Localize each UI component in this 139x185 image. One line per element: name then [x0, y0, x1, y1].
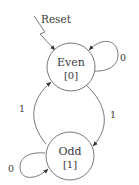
- transition-odd-to-even: [34, 82, 51, 144]
- state-odd-output: [1]: [63, 159, 77, 170]
- transition-odd-to-even-label: 1: [19, 103, 25, 114]
- reset-label: Reset: [41, 13, 72, 25]
- transition-odd-self-loop: [20, 153, 48, 178]
- state-diagram: Reset 1 1 0 0 Even [0] Odd [1]: [0, 0, 139, 185]
- state-even-name: Even: [57, 56, 85, 69]
- transition-even-to-odd: [86, 85, 104, 146]
- state-even: Even [0]: [47, 43, 95, 91]
- transition-odd-self-loop-label: 0: [8, 163, 14, 174]
- state-even-output: [0]: [64, 70, 78, 81]
- state-odd: Odd [1]: [46, 132, 94, 180]
- transition-even-self-loop-label: 0: [120, 52, 126, 63]
- state-odd-name: Odd: [58, 145, 81, 158]
- transition-even-to-odd-label: 1: [110, 109, 116, 120]
